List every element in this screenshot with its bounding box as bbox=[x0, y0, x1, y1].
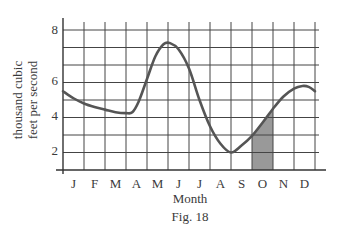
y-tick-label: 6 bbox=[46, 73, 58, 89]
y-axis-label-line-2: feet per second bbox=[25, 61, 40, 140]
x-tick-label: D bbox=[295, 176, 315, 192]
x-tick-label: J bbox=[169, 176, 189, 192]
x-tick-label: A bbox=[127, 176, 147, 192]
x-tick-label: O bbox=[253, 176, 273, 192]
y-axis-label-line-1: thousand cubic bbox=[10, 61, 25, 140]
x-tick-label: J bbox=[190, 176, 210, 192]
x-tick-label: M bbox=[148, 176, 168, 192]
x-tick-label: M bbox=[106, 176, 126, 192]
grid bbox=[63, 22, 319, 170]
y-tick-label: 4 bbox=[46, 108, 58, 124]
x-axis-label: Month bbox=[160, 191, 220, 207]
x-tick-label: S bbox=[232, 176, 252, 192]
y-tick-label: 8 bbox=[46, 22, 58, 38]
y-tick-label: 2 bbox=[46, 143, 58, 159]
x-tick-label: N bbox=[274, 176, 294, 192]
figure-caption: Fig. 18 bbox=[155, 209, 225, 225]
x-tick-label: J bbox=[64, 176, 84, 192]
x-tick-label: A bbox=[211, 176, 231, 192]
x-tick-label: F bbox=[85, 176, 105, 192]
y-axis-label: thousand cubic feet per second bbox=[2, 30, 48, 170]
